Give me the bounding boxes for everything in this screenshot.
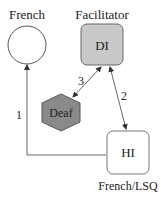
facilitator-label: Facilitator xyxy=(75,7,129,22)
communication-diagram: French Facilitator DI Deaf HI French/LSQ… xyxy=(0,0,161,198)
edge-1-label: 1 xyxy=(16,108,22,122)
edge-3-label: 3 xyxy=(78,74,84,88)
facilitator-node-text: DI xyxy=(95,38,109,53)
hi-label: French/LSQ xyxy=(98,179,158,193)
hi-node-text: HI xyxy=(121,145,135,160)
french-label: French xyxy=(9,7,46,22)
french-node xyxy=(8,26,46,64)
edge-2-label: 2 xyxy=(121,89,127,103)
deaf-node-text: Deaf xyxy=(49,106,72,120)
